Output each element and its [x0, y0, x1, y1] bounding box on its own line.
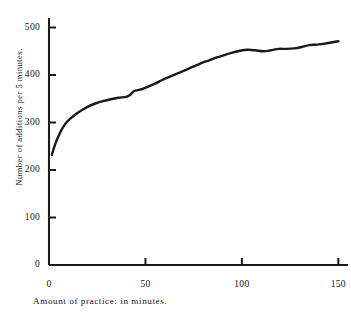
data-series-line [52, 41, 338, 155]
x-tick-label: 50 [125, 279, 165, 289]
chart-canvas [0, 0, 351, 318]
x-tick-label: 150 [318, 279, 351, 289]
x-tick-label: 100 [222, 279, 262, 289]
axes-group [49, 18, 348, 265]
x-axis-title: Amount of practice: in minutes. [33, 296, 167, 306]
learning-curve-figure: 0100200300400500 050100150 Number of add… [0, 0, 351, 318]
y-tick-label: 0 [6, 259, 40, 269]
y-tick-label: 100 [6, 212, 40, 222]
y-axis-title: Number of additions per 5 minutes. [14, 42, 24, 192]
y-tick-label: 500 [6, 22, 40, 32]
x-tick-label: 0 [29, 279, 69, 289]
